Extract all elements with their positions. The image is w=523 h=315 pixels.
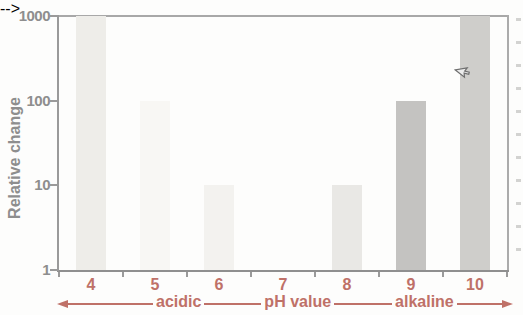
arrow-line-segment (68, 303, 153, 305)
edge-artifact-mark (516, 156, 521, 159)
x-tick-mark (506, 272, 508, 277)
y-tick-mark (50, 184, 59, 186)
arrow-line-segment (334, 303, 392, 305)
edge-artifact-mark (516, 110, 521, 113)
x-tick-label-ph-5: 5 (130, 276, 180, 294)
alkaline-region-label: alkaline (392, 293, 457, 311)
x-tick-label-ph-10: 10 (450, 276, 500, 294)
y-tick-mark (50, 269, 59, 271)
edge-artifact-mark (516, 133, 521, 136)
bar-ph-6 (204, 185, 234, 270)
acidic-region-label: acidic (153, 293, 204, 311)
ph-relative-change-chart: Relative change 1101001000 45678910 --> … (0, 0, 523, 315)
y-tick-label: 100 (0, 92, 50, 110)
y-tick-mark (50, 100, 59, 102)
bar-ph-10 (460, 16, 490, 270)
acidic-direction-arrowhead-icon (57, 300, 68, 308)
x-axis-title: pH value (261, 293, 334, 311)
x-tick-label-ph-4: 4 (66, 276, 116, 294)
bar-ph-8 (332, 185, 362, 270)
x-tick-mark (250, 272, 252, 277)
x-tick-label-ph-8: 8 (322, 276, 372, 294)
x-tick-mark (442, 272, 444, 277)
edge-artifact-mark (516, 225, 521, 228)
x-tick-mark (314, 272, 316, 277)
alkaline-direction-arrowhead-icon (502, 300, 513, 308)
x-tick-label-ph-7: 7 (258, 276, 308, 294)
x-tick-mark (122, 272, 124, 277)
y-tick-label: 10 (0, 176, 50, 194)
edge-artifact-mark (516, 87, 521, 90)
edge-artifact-mark (516, 41, 521, 44)
arrow-line-segment (204, 303, 261, 305)
x-tick-mark (186, 272, 188, 277)
edge-artifact-mark (516, 179, 521, 182)
plot-right-frame-line (507, 15, 509, 272)
x-tick-mark (378, 272, 380, 277)
edge-artifact-mark (516, 18, 521, 21)
x-tick-label-ph-6: 6 (194, 276, 244, 294)
y-tick-label: 1 (0, 261, 50, 279)
y-tick-mark (50, 15, 59, 17)
edge-artifact-mark (516, 248, 521, 251)
y-tick-label: 1000 (0, 7, 50, 25)
plot-top-frame-line (57, 15, 509, 17)
y-axis-line (57, 15, 59, 272)
x-axis-annotation: acidic pH value alkaline (57, 295, 513, 312)
x-tick-label-ph-9: 9 (386, 276, 436, 294)
mouse-cursor-icon (454, 62, 472, 80)
edge-artifact-mark (516, 64, 521, 67)
bar-ph-9 (396, 101, 426, 270)
arrow-line-segment (457, 303, 502, 305)
x-tick-mark (58, 272, 60, 277)
bar-ph-5 (140, 101, 170, 270)
edge-artifact-mark (516, 202, 521, 205)
bar-ph-4 (76, 16, 106, 270)
